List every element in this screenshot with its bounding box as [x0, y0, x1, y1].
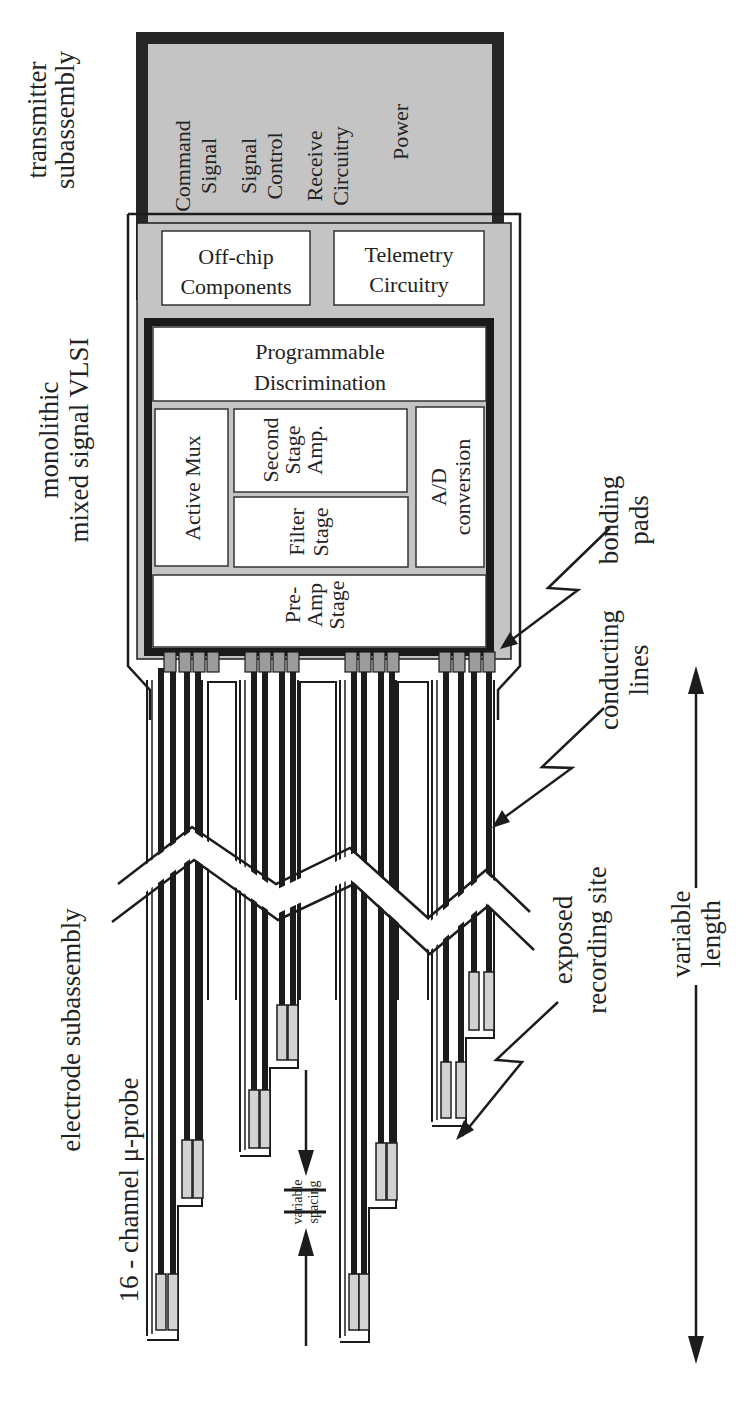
probe-label-text: 16 - channel μ-probe: [114, 1077, 144, 1302]
label-line: subassembly: [50, 51, 80, 189]
vlsi-package: Off-chip Components Telemetry Circuitry …: [128, 214, 520, 720]
transmitter-label: transmitter subassembly: [22, 51, 80, 189]
label-line: monolithic: [34, 381, 64, 498]
bonding-pad: [373, 652, 385, 672]
bonding-pad: [273, 652, 285, 672]
bonding-pad: [359, 652, 371, 672]
bonding-pads-callout: bonding pads: [500, 476, 654, 649]
bonding-line-1: bonding: [594, 476, 624, 565]
recording-site: [359, 1274, 369, 1330]
conducting-line-2: lines: [624, 645, 654, 696]
recording-site: [193, 1140, 203, 1198]
recording-site: [168, 1274, 178, 1330]
length-line-2: length: [696, 900, 726, 968]
recording-site: [441, 1062, 451, 1118]
length-line-1: variable: [666, 891, 696, 978]
bonding-pad: [164, 652, 176, 672]
spacing-line-1: variable: [290, 1179, 305, 1224]
shank-gap: [398, 682, 428, 1000]
second-stage-label-group: Second Stage Amp.: [258, 418, 327, 483]
diagram-canvas: Command Signal Signal Control Receive Ci…: [0, 0, 749, 1409]
spacing-line-2: spacing: [306, 1181, 321, 1224]
shank-outline: [240, 680, 298, 1156]
preamp-line-3: Stage: [324, 581, 349, 630]
variable-spacing-indicator: variable spacing: [284, 1070, 326, 1346]
active-mux-label: Active Mux: [180, 435, 205, 541]
bonding-pad: [193, 652, 205, 672]
telemetry-line-1: Telemetry: [365, 242, 454, 267]
recording-site: [349, 1274, 359, 1330]
spacing-arrow-head-up: [298, 1228, 314, 1256]
conducting-arrow-line: [498, 708, 604, 822]
bonding-pad: [453, 652, 465, 672]
block-line: Signal: [236, 138, 261, 194]
shank-gap: [300, 682, 336, 1000]
ad-line-2: conversion: [450, 439, 475, 536]
electrode-label-text: electrode subassembly: [56, 908, 86, 1152]
shank-outline: [340, 680, 396, 1342]
bonding-line-2: pads: [624, 495, 654, 545]
recording-site: [182, 1140, 192, 1198]
vlsi-label: monolithic mixed signal VLSI: [34, 337, 94, 542]
bonding-pad: [207, 652, 219, 672]
second-stage-line-3: Amp.: [302, 425, 327, 475]
bonding-pad: [345, 652, 357, 672]
recording-site: [277, 1005, 287, 1060]
ad-line-1: A/D: [426, 468, 451, 506]
discrimination-line-1: Programmable: [255, 339, 385, 364]
spacing-arrow-head-down: [298, 1150, 314, 1176]
block-line: Receive: [302, 131, 327, 202]
recording-line-1: exposed: [548, 895, 578, 984]
electrode-subassembly: [147, 652, 495, 1342]
block-line: Circuitry: [328, 126, 353, 205]
recording-site: [260, 1090, 270, 1148]
recording-site: [249, 1090, 259, 1148]
length-arrow-head-up: [688, 666, 704, 694]
recording-site: [156, 1274, 166, 1330]
bonding-pad: [179, 652, 191, 672]
off-chip-line-1: Off-chip: [198, 244, 273, 269]
preamp-label-group: Pre- Amp Stage: [280, 581, 349, 630]
recording-site: [484, 972, 494, 1030]
bonding-pad: [387, 652, 399, 672]
off-chip-line-2: Components: [180, 274, 291, 299]
discrimination-line-2: Discrimination: [254, 370, 386, 395]
recording-site: [469, 972, 479, 1030]
block-line: Command: [170, 120, 195, 212]
recording-site: [376, 1143, 386, 1200]
length-arrow-head-down: [688, 1336, 704, 1364]
filter-stage-line-2: Stage: [308, 508, 333, 557]
active-mux-label-group: Active Mux: [180, 435, 205, 541]
electrode-label: electrode subassembly: [56, 908, 86, 1152]
variable-length-indicator: variable length: [666, 666, 726, 1364]
recording-site: [387, 1143, 397, 1200]
block-line: Signal: [196, 138, 221, 194]
bonding-pad: [259, 652, 271, 672]
transmitter-block-receive-circuitry: Receive Circuitry: [302, 126, 353, 205]
bonding-pad: [287, 652, 299, 672]
block-line: Control: [262, 132, 287, 199]
transmitter-block-signal-control: Signal Control: [236, 132, 287, 199]
filter-stage-line-1: Filter: [284, 507, 309, 555]
telemetry-line-2: Circuitry: [369, 272, 448, 297]
label-line: transmitter: [22, 62, 52, 179]
bonding-pad: [483, 652, 495, 672]
probe-label: 16 - channel μ-probe: [114, 1077, 144, 1302]
block-line: Power: [388, 103, 413, 160]
recording-site: [456, 1062, 466, 1118]
transmitter-block-power: Power: [388, 103, 413, 160]
probe-system-diagram: Command Signal Signal Control Receive Ci…: [0, 0, 749, 1409]
recording-line-2: recording site: [582, 866, 612, 1014]
recording-site: [288, 1005, 298, 1060]
filter-stage-label-group: Filter Stage: [284, 507, 333, 556]
bonding-pad: [245, 652, 257, 672]
bonding-pad: [469, 652, 481, 672]
label-line: mixed signal VLSI: [64, 337, 94, 542]
bonding-pad: [439, 652, 451, 672]
